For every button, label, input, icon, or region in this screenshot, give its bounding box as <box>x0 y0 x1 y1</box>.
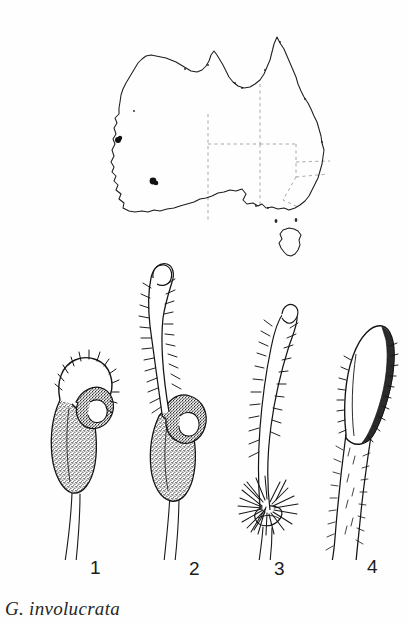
tick-mark <box>321 141 323 143</box>
boundary-nsw-vic <box>283 177 300 208</box>
tick-mark <box>184 68 186 70</box>
state-boundaries <box>208 84 330 222</box>
figure-2-stalk-left <box>164 493 170 560</box>
mainland-outline <box>111 37 324 212</box>
occurrence-dot <box>118 136 122 140</box>
figure-3-bract <box>238 304 298 560</box>
offshore-islands <box>275 218 298 223</box>
tick-mark <box>133 110 135 112</box>
figure-number-4: 4 <box>367 557 378 576</box>
tick-mark <box>264 69 266 71</box>
figure-2-flower <box>139 264 206 560</box>
specimen-figures-group <box>20 250 400 560</box>
figure-number-3: 3 <box>274 559 285 578</box>
figure-number-1: 1 <box>90 558 101 577</box>
australia-distribution-map <box>90 22 330 267</box>
map-svg <box>90 22 330 267</box>
king-island-dot <box>275 219 278 223</box>
figure-2-stalk-right <box>175 494 179 560</box>
figure-1-curl-inner <box>88 400 107 423</box>
tick-mark <box>267 207 269 209</box>
figure-4-leaf-apex <box>326 326 398 560</box>
figure-1-stalk-right <box>76 494 80 560</box>
figure-3-stalk-left <box>259 527 263 560</box>
coastline-mainland <box>111 37 324 212</box>
boundary-qld-nsw <box>296 161 330 162</box>
figure-2-curl-inner <box>179 412 199 436</box>
occurrence-dot <box>154 181 159 186</box>
flinders-island-dot <box>295 218 298 222</box>
coastal-tick-marks <box>133 41 323 209</box>
specimens-svg <box>20 250 400 560</box>
tick-mark <box>241 87 243 89</box>
figure-number-2: 2 <box>189 559 200 578</box>
tick-mark <box>234 82 236 84</box>
figure-1-stalk-left <box>65 493 72 560</box>
tick-mark <box>304 98 306 100</box>
figure-4-sheath <box>332 434 371 560</box>
figure-3-stalk-right <box>270 528 272 560</box>
species-caption: G. involucrata <box>5 598 120 620</box>
tick-mark <box>255 205 257 207</box>
tick-mark <box>207 64 209 66</box>
tick-mark <box>279 41 281 43</box>
botanical-illustration-plate: 1 2 3 4 G. involucrata <box>0 0 408 625</box>
figure-2-awn <box>149 264 174 414</box>
occurrence-dots <box>115 136 158 186</box>
figure-1-flower <box>51 350 119 560</box>
boundary-sa-nsw <box>296 174 328 177</box>
